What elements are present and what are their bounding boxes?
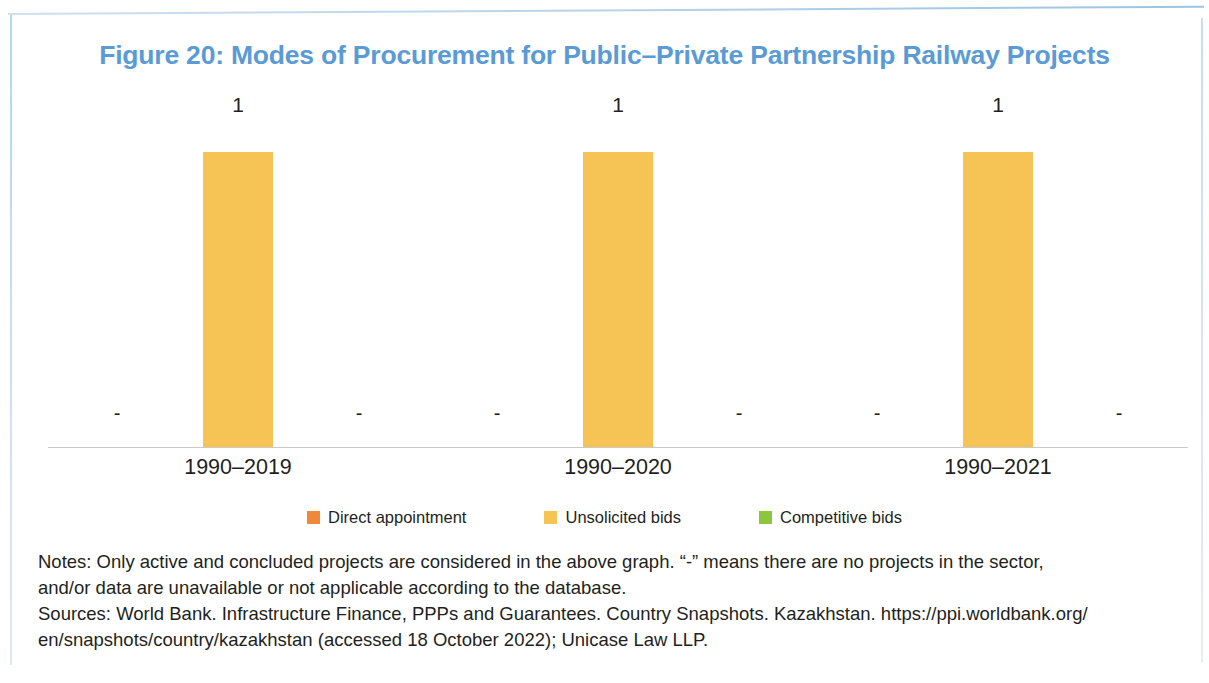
- bar-slot-competitive-bids: -: [296, 78, 422, 447]
- x-axis-line: [48, 447, 1188, 448]
- sources-line-1: Sources: World Bank. Infrastructure Fina…: [38, 601, 1198, 627]
- page-border-top: [8, 6, 1204, 15]
- bar-slot-unsolicited-bids[interactable]: 1: [175, 78, 301, 447]
- legend-label: Direct appointment: [328, 508, 467, 527]
- bar-slot-unsolicited-bids[interactable]: 1: [555, 78, 681, 447]
- legend-swatch-icon: [307, 511, 320, 524]
- bar-slot-competitive-bids: -: [676, 78, 802, 447]
- bar-slot-direct-appointment: -: [54, 78, 180, 447]
- legend-label: Competitive bids: [780, 508, 902, 527]
- missing-value-marker: -: [114, 403, 121, 423]
- missing-value-marker: -: [874, 403, 881, 423]
- legend-item-unsolicited-bids[interactable]: Unsolicited bids: [544, 508, 681, 527]
- missing-value-marker: -: [494, 403, 501, 423]
- missing-value-marker: -: [1116, 403, 1123, 423]
- chart-legend: Direct appointment Unsolicited bids Comp…: [0, 508, 1209, 527]
- figure-page: Figure 20: Modes of Procurement for Publ…: [0, 0, 1209, 683]
- bar-unsolicited-bids[interactable]: [583, 152, 653, 447]
- page-border-right: [1201, 18, 1203, 663]
- x-axis-tick-label: 1990–2019: [48, 455, 428, 480]
- x-axis-tick-label: 1990–2021: [808, 455, 1188, 480]
- bar-slot-direct-appointment: -: [434, 78, 560, 447]
- notes-line-2: and/or data are unavailable or not appli…: [38, 575, 1198, 601]
- bar-value-label: 1: [232, 93, 244, 117]
- bar-value-label: 1: [612, 93, 624, 117]
- bar-unsolicited-bids[interactable]: [963, 152, 1033, 447]
- legend-swatch-icon: [759, 511, 772, 524]
- x-axis-labels: 1990–2019 1990–2020 1990–2021: [48, 455, 1188, 485]
- legend-label: Unsolicited bids: [565, 508, 681, 527]
- bar-unsolicited-bids[interactable]: [203, 152, 273, 447]
- legend-item-competitive-bids[interactable]: Competitive bids: [759, 508, 902, 527]
- missing-value-marker: -: [736, 403, 743, 423]
- bar-value-label: 1: [992, 93, 1004, 117]
- figure-footnotes: Notes: Only active and concluded project…: [38, 549, 1198, 653]
- legend-swatch-icon: [544, 511, 557, 524]
- bar-group-1990-2019: - 1 -: [48, 78, 428, 447]
- notes-line-1: Notes: Only active and concluded project…: [38, 549, 1198, 575]
- legend-item-direct-appointment[interactable]: Direct appointment: [307, 508, 467, 527]
- page-border-left: [10, 15, 12, 665]
- bar-slot-direct-appointment: -: [814, 78, 940, 447]
- bar-group-1990-2021: - 1 -: [808, 78, 1188, 447]
- missing-value-marker: -: [356, 403, 363, 423]
- bar-slot-competitive-bids: -: [1056, 78, 1182, 447]
- sources-line-2: en/snapshots/country/kazakhstan (accesse…: [38, 627, 1198, 653]
- chart-title: Figure 20: Modes of Procurement for Publ…: [0, 40, 1209, 71]
- plot-area: - 1 - - 1 - -: [48, 78, 1188, 448]
- bar-group-1990-2020: - 1 -: [428, 78, 808, 447]
- x-axis-tick-label: 1990–2020: [428, 455, 808, 480]
- bar-slot-unsolicited-bids[interactable]: 1: [935, 78, 1061, 447]
